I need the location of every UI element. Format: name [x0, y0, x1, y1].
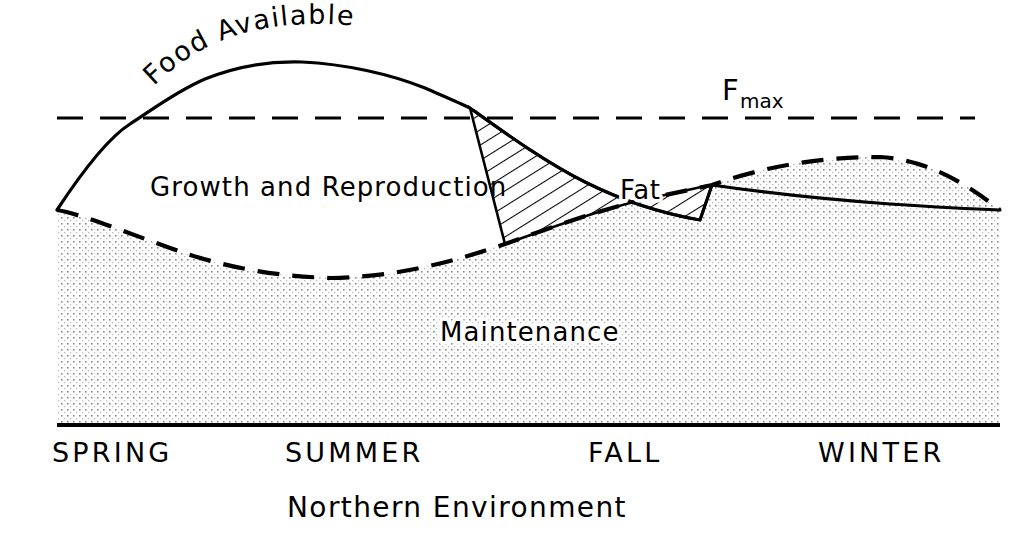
- axis-label-fall: FALL: [588, 437, 662, 468]
- label-fat: Fat: [620, 175, 661, 205]
- label-maintenance: Maintenance: [440, 317, 620, 347]
- label-fmax-base: F: [722, 73, 739, 107]
- axis-label-winter: WINTER: [818, 437, 944, 468]
- label-fmax: F max: [722, 73, 784, 113]
- diagram-canvas: Food Available F max Growth and Reproduc…: [0, 0, 1036, 556]
- label-growth-and-reproduction: Growth and Reproduction: [150, 172, 507, 202]
- figure-title: Northern Environment: [287, 491, 627, 524]
- axis-label-summer: SUMMER: [285, 437, 424, 468]
- label-food-available: Food Available: [137, 0, 357, 90]
- label-fmax-subscript: max: [740, 89, 784, 113]
- figure-northern-environment-energy-budget: Food Available F max Growth and Reproduc…: [0, 0, 1036, 556]
- axis-label-spring: SPRING: [52, 437, 172, 468]
